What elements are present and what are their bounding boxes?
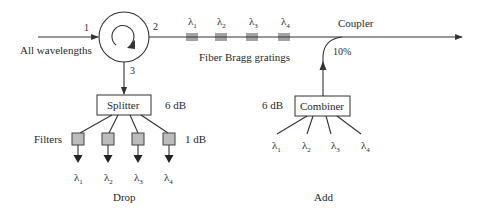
filter-loss: 1 dB	[185, 133, 206, 145]
oadm-diagram: 1 All wavelengths 2 3	[0, 0, 485, 218]
splitter-branches	[80, 115, 168, 133]
grating-4-wavelength: λ4	[281, 15, 290, 30]
filter-2-icon	[102, 133, 114, 145]
add-wavelength-4: λ4	[361, 139, 370, 154]
coupler-ratio: 10%	[333, 46, 351, 57]
grating-3-wavelength: λ3	[249, 15, 258, 30]
port-1-label: 1	[84, 22, 89, 33]
splitter-loss: 6 dB	[165, 99, 186, 111]
combiner-loss: 6 dB	[262, 99, 283, 111]
gratings-label: Fiber Bragg gratings	[199, 51, 290, 63]
filter-3-icon	[132, 133, 144, 145]
input-label: All wavelengths	[20, 44, 92, 56]
filter-1-icon	[72, 133, 84, 145]
port-3-label: 3	[130, 65, 135, 76]
drop-label: Drop	[113, 191, 136, 203]
combiner-label: Combiner	[300, 100, 344, 112]
add-label: Add	[314, 191, 333, 203]
add-wavelength-1: λ1	[272, 139, 281, 154]
drop-wavelength-3: λ3	[134, 171, 143, 186]
circulator-icon	[99, 12, 149, 62]
grating-1-wavelength: λ1	[188, 15, 197, 30]
port-2-label: 2	[153, 21, 158, 32]
drop-arrows	[74, 145, 174, 163]
combiner-branches	[277, 116, 361, 134]
add-wavelength-3: λ3	[331, 139, 340, 154]
add-wavelength-2: λ2	[302, 139, 311, 154]
splitter-label: Splitter	[107, 99, 140, 111]
coupler-label: Coupler	[338, 17, 374, 29]
grating-2-wavelength: λ2	[217, 15, 226, 30]
drop-wavelength-4: λ4	[164, 171, 173, 186]
filters-label: Filters	[34, 133, 62, 145]
drop-wavelength-2: λ2	[104, 171, 113, 186]
filter-4-icon	[163, 133, 175, 145]
drop-wavelength-1: λ1	[74, 171, 83, 186]
